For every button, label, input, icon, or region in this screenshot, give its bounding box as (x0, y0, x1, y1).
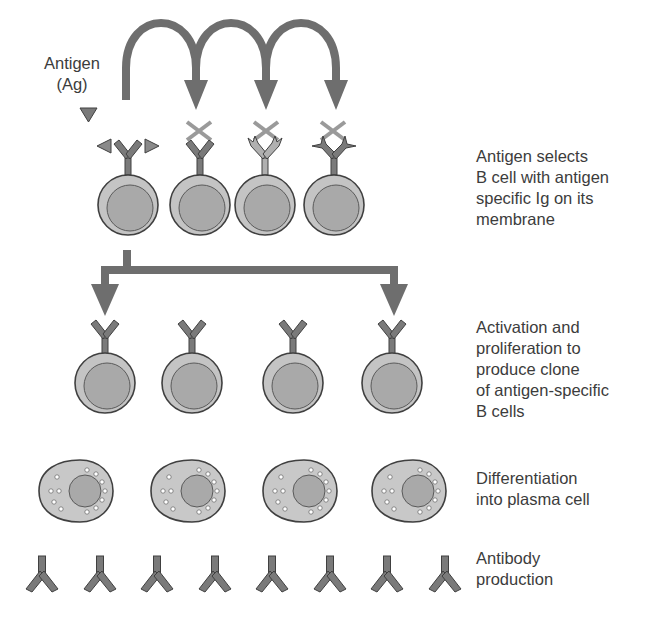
antigen-icon (80, 108, 97, 122)
selection-arrows (126, 23, 336, 100)
selected-b-cell (97, 139, 159, 235)
non-matching-b-cell (170, 122, 230, 235)
step-proliferation-label: Activation and proliferation to produce … (476, 317, 609, 422)
step-differentiation-label: Differentiation into plasma cell (476, 468, 590, 510)
step-selection-label: Antigen selects B cell with antigen spec… (476, 146, 609, 230)
step-antibody-production-label: Antibody production (476, 548, 553, 590)
antigen-label: Antigen (Ag) (44, 53, 100, 95)
clone-cells (75, 320, 422, 413)
non-matching-b-cell-spiky (304, 122, 364, 235)
antibodies (26, 556, 461, 592)
non-matching-b-cell-jagged (235, 122, 295, 235)
arrow-heads (184, 80, 348, 110)
proliferation-arrow (91, 250, 408, 316)
plasma-cells (39, 460, 446, 522)
